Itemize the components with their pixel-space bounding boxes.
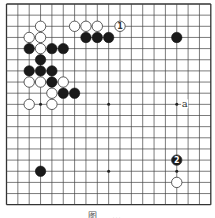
star-point <box>107 103 110 106</box>
black-stone <box>81 32 91 42</box>
black-stone <box>35 66 45 76</box>
star-point <box>39 103 42 106</box>
black-stone <box>35 55 45 65</box>
white-stone <box>24 77 34 87</box>
white-stone <box>172 177 182 187</box>
black-stone <box>58 88 68 98</box>
black-stone <box>103 32 113 42</box>
white-stone <box>47 88 57 98</box>
white-stone <box>35 77 45 87</box>
star-point <box>175 170 178 173</box>
black-stone <box>35 166 45 176</box>
black-stone <box>24 43 34 53</box>
white-stone <box>92 21 102 31</box>
black-stone <box>92 32 102 42</box>
white-stone <box>81 21 91 31</box>
white-stone <box>69 21 79 31</box>
labels-layer: a <box>181 98 188 109</box>
black-stone <box>24 66 34 76</box>
move-number: 2 <box>174 156 180 165</box>
white-stone <box>35 32 45 42</box>
black-stone <box>47 77 57 87</box>
white-stone <box>58 77 68 87</box>
white-stone <box>47 99 57 109</box>
black-stone <box>69 88 79 98</box>
black-stone <box>58 43 68 53</box>
move-number: 1 <box>117 22 123 31</box>
white-stone <box>24 32 34 42</box>
go-board: 12 a <box>0 0 215 208</box>
point-label: a <box>182 98 188 109</box>
white-stone <box>35 43 45 53</box>
white-stone <box>24 99 34 109</box>
white-stone <box>35 21 45 31</box>
star-point <box>107 170 110 173</box>
black-stone <box>47 66 57 76</box>
black-stone <box>172 32 182 42</box>
diagram-caption: 图 … <box>0 209 215 218</box>
star-point <box>175 103 178 106</box>
black-stone <box>47 43 57 53</box>
